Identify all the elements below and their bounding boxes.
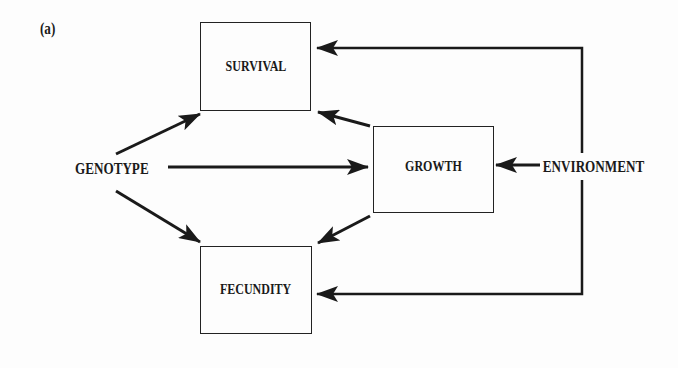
genotype-label: GENOTYPE <box>75 160 149 178</box>
arrow-genotype-survival <box>116 114 200 154</box>
arrow-growth-fecundity <box>318 216 370 243</box>
fecundity-box: FECUNDITY <box>200 246 312 334</box>
arrow-genotype-fecundity <box>116 191 200 242</box>
fecundity-label: FECUNDITY <box>220 281 291 298</box>
arrow-growth-survival <box>318 112 370 126</box>
environment-label: ENVIRONMENT <box>542 158 645 176</box>
growth-label: GROWTH <box>405 158 462 175</box>
arrows-layer <box>0 0 678 368</box>
panel-label: (a) <box>40 20 55 38</box>
growth-box: GROWTH <box>373 126 494 213</box>
diagram-figure: (a) SURVIVAL GROWTH FECUNDITY GENOTYPE E… <box>0 0 678 368</box>
survival-label: SURVIVAL <box>225 58 286 75</box>
survival-box: SURVIVAL <box>200 22 311 111</box>
